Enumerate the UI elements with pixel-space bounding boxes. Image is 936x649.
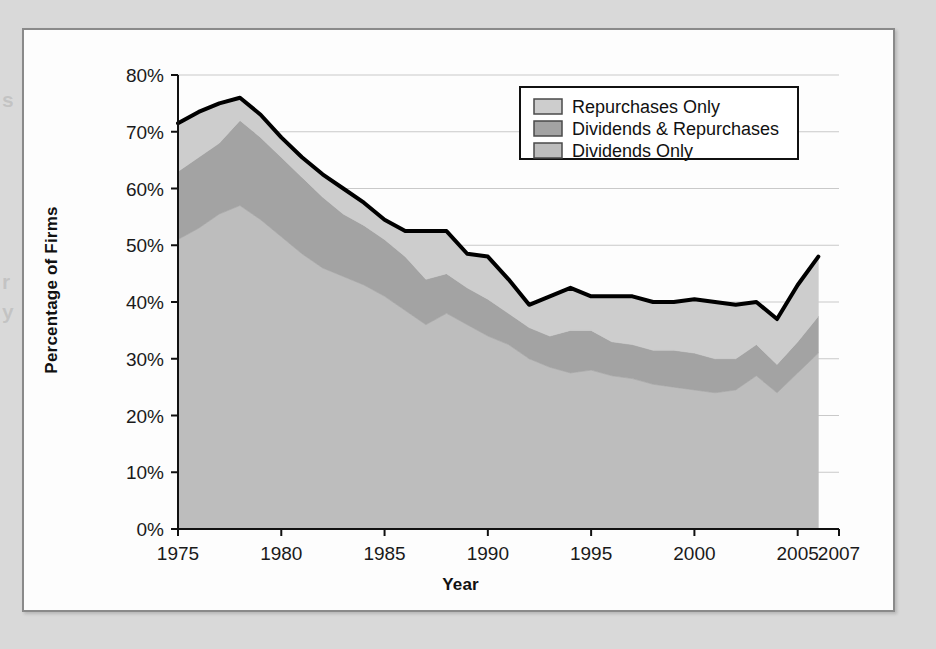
figure-panel: 0%10%20%30%40%50%60%70%80% 1975198019851… [22, 28, 895, 612]
x-axis-tick-labels: 19751980198519901995200020052007 [157, 543, 860, 564]
x-tick-label: 2000 [673, 543, 715, 564]
y-tick-label: 50% [126, 235, 164, 256]
x-tick-label: 1985 [363, 543, 405, 564]
x-tick-label: 1990 [467, 543, 509, 564]
chart-area: 0%10%20%30%40%50%60%70%80% 1975198019851… [24, 30, 893, 610]
x-tick-label: 2005 [777, 543, 819, 564]
y-tick-label: 10% [126, 462, 164, 483]
y-tick-label: 20% [126, 406, 164, 427]
legend-label-1: Dividends & Repurchases [572, 119, 779, 139]
legend-swatch-2 [534, 143, 562, 158]
y-tick-label: 30% [126, 349, 164, 370]
page-bleed-fragment-2: r [2, 270, 10, 294]
page-bleed-fragment-1: s [2, 88, 14, 112]
x-tick-label: 1995 [570, 543, 612, 564]
legend-swatch-0 [534, 99, 562, 114]
x-axis-title: Year [24, 575, 897, 595]
y-tick-label: 60% [126, 179, 164, 200]
y-tick-label: 40% [126, 292, 164, 313]
y-tick-label: 70% [126, 122, 164, 143]
page-bleed-fragment-3: y [2, 300, 14, 324]
stacked-area-chart: 0%10%20%30%40%50%60%70%80% 1975198019851… [24, 30, 897, 614]
chart-legend: Repurchases OnlyDividends & RepurchasesD… [520, 87, 798, 161]
x-tick-label: 1975 [157, 543, 199, 564]
legend-label-0: Repurchases Only [572, 97, 720, 117]
legend-label-2: Dividends Only [572, 141, 693, 161]
y-axis-title: Percentage of Firms [42, 200, 62, 380]
y-tick-label: 80% [126, 65, 164, 86]
x-tick-label: 1980 [260, 543, 302, 564]
y-tick-label: 0% [137, 519, 165, 540]
x-tick-label: 2007 [818, 543, 860, 564]
legend-swatch-1 [534, 121, 562, 136]
y-axis-tick-labels: 0%10%20%30%40%50%60%70%80% [126, 65, 164, 540]
area-bands [178, 98, 818, 529]
